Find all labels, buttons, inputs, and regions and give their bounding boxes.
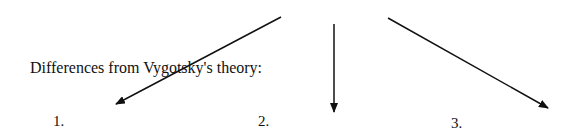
label-1: 1. bbox=[53, 113, 64, 130]
diagram-heading: Differences from Vygotsky's theory: bbox=[30, 59, 262, 77]
diagram-canvas: Differences from Vygotsky's theory: 1. 2… bbox=[0, 0, 578, 137]
label-2: 2. bbox=[258, 113, 269, 130]
arrow-3-icon bbox=[388, 18, 548, 108]
label-3: 3. bbox=[451, 115, 462, 132]
